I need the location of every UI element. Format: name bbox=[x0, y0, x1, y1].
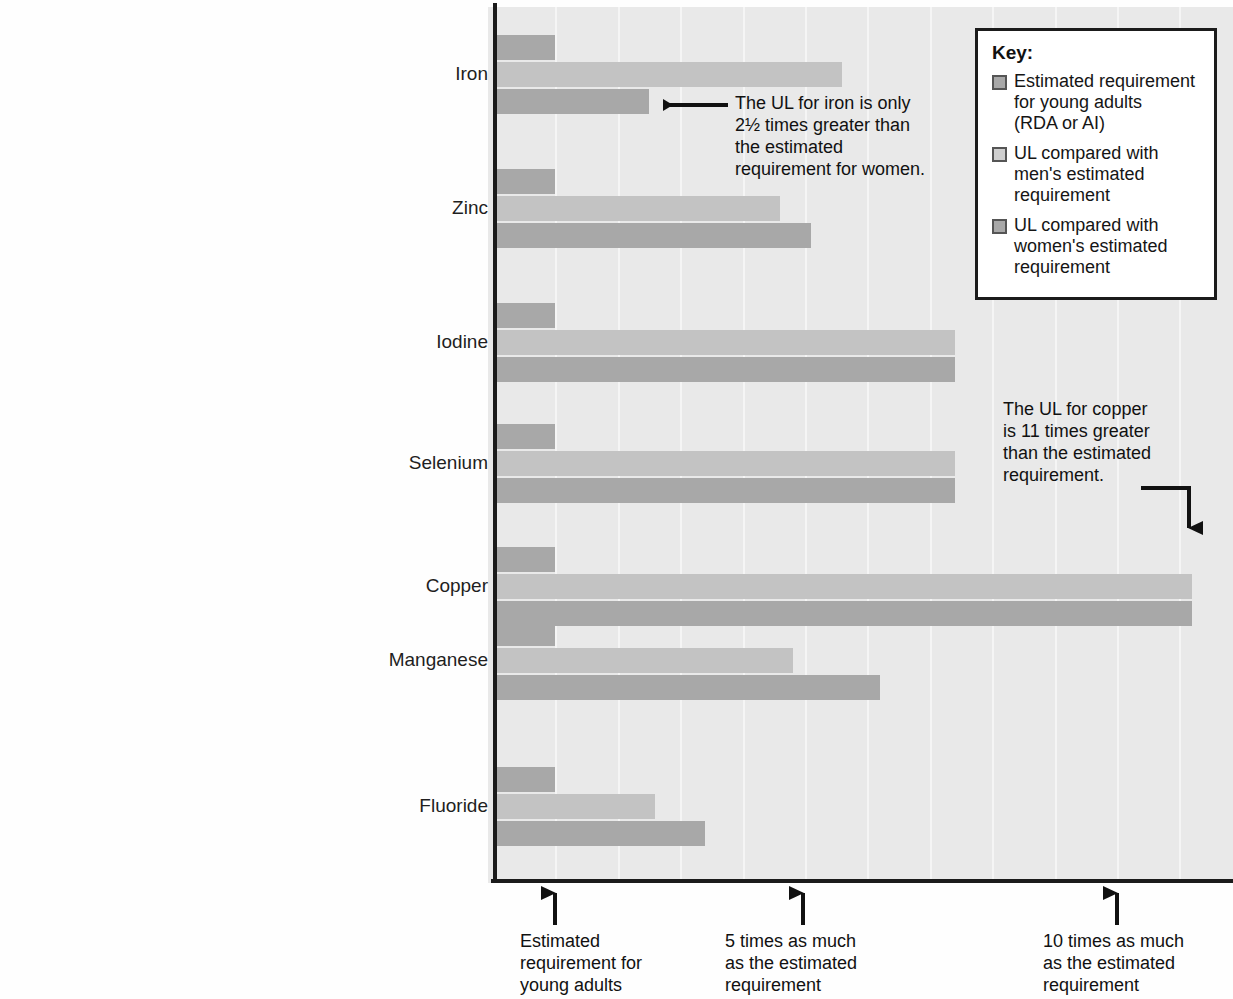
bar-fluoride-ulmen bbox=[493, 794, 655, 819]
category-label-fluoride: Fluoride bbox=[188, 795, 488, 817]
legend-title: Key: bbox=[992, 42, 1202, 64]
bar-iodine-est bbox=[493, 303, 555, 328]
category-label-iron: Iron bbox=[188, 63, 488, 85]
bar-iron-ulwom bbox=[493, 89, 649, 114]
bar-iodine-ulmen bbox=[493, 330, 955, 355]
legend-swatch-icon bbox=[992, 147, 1007, 162]
y-axis-line bbox=[493, 3, 497, 883]
bar-copper-est bbox=[493, 547, 555, 572]
legend-key: Key: Estimated requirement for young adu… bbox=[975, 28, 1217, 300]
bar-group bbox=[488, 547, 1233, 626]
legend-items: Estimated requirement for young adults (… bbox=[990, 71, 1202, 278]
bar-iodine-ulwom bbox=[493, 357, 955, 382]
x-axis-line bbox=[491, 879, 1233, 883]
category-label-iodine: Iodine bbox=[188, 331, 488, 353]
category-label-manganese: Manganese bbox=[188, 649, 488, 671]
bar-group bbox=[488, 767, 1233, 846]
chart-page: IronZincIodineSeleniumCopperManganeseFlu… bbox=[0, 0, 1233, 999]
category-label-selenium: Selenium bbox=[188, 452, 488, 474]
bar-manganese-ulmen bbox=[493, 648, 793, 673]
bar-selenium-ulwom bbox=[493, 478, 955, 503]
bar-zinc-ulwom bbox=[493, 223, 811, 248]
legend-swatch-icon bbox=[992, 75, 1007, 90]
x-axis-caption-1x: Estimated requirement for young adults bbox=[520, 930, 705, 996]
x-axis-caption-10x: 10 times as much as the estimated requir… bbox=[1043, 930, 1233, 996]
legend-item-label: UL compared with men's estimated require… bbox=[1014, 143, 1158, 206]
bar-manganese-ulwom bbox=[493, 675, 880, 700]
annotation-copper-text: The UL for copper is 11 times greater th… bbox=[1003, 398, 1228, 486]
bar-copper-ulmen bbox=[493, 574, 1192, 599]
bar-zinc-ulmen bbox=[493, 196, 780, 221]
legend-item-label: Estimated requirement for young adults (… bbox=[1014, 71, 1195, 134]
bar-iron-est bbox=[493, 35, 555, 60]
legend-item-1: UL compared with men's estimated require… bbox=[990, 143, 1202, 206]
bar-fluoride-est bbox=[493, 767, 555, 792]
annotation-iron-text: The UL for iron is only 2½ times greater… bbox=[735, 92, 975, 180]
legend-swatch-icon bbox=[992, 219, 1007, 234]
bar-group bbox=[488, 303, 1233, 382]
bar-fluoride-ulwom bbox=[493, 821, 705, 846]
legend-item-0: Estimated requirement for young adults (… bbox=[990, 71, 1202, 134]
category-label-zinc: Zinc bbox=[188, 197, 488, 219]
x-axis-caption-5x: 5 times as much as the estimated require… bbox=[725, 930, 910, 996]
legend-item-label: UL compared with women's estimated requi… bbox=[1014, 215, 1168, 278]
bar-zinc-est bbox=[493, 169, 555, 194]
bar-manganese-est bbox=[493, 621, 555, 646]
bar-group bbox=[488, 621, 1233, 700]
legend-item-2: UL compared with women's estimated requi… bbox=[990, 215, 1202, 278]
category-label-copper: Copper bbox=[188, 575, 488, 597]
bar-iron-ulmen bbox=[493, 62, 842, 87]
bar-selenium-est bbox=[493, 424, 555, 449]
bar-selenium-ulmen bbox=[493, 451, 955, 476]
